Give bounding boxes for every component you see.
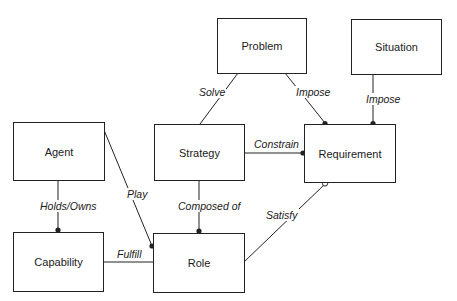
node-capability-label: Capability xyxy=(34,256,82,268)
node-requirement-label: Requirement xyxy=(319,148,382,160)
edge-label-impose-problem: Impose xyxy=(295,86,331,98)
node-strategy[interactable]: Strategy xyxy=(154,124,245,181)
node-situation[interactable]: Situation xyxy=(351,19,442,75)
edge-label-holds-owns: Holds/Owns xyxy=(39,200,98,212)
edge-label-fulfill: Fulfill xyxy=(116,248,143,260)
node-capability[interactable]: Capability xyxy=(13,232,104,292)
edge-label-satisfy: Satisfy xyxy=(265,209,299,221)
node-problem[interactable]: Problem xyxy=(217,18,307,74)
node-role-label: Role xyxy=(188,257,211,269)
edge-label-constrain: Constrain xyxy=(253,138,300,150)
node-requirement[interactable]: Requirement xyxy=(304,124,396,183)
node-agent[interactable]: Agent xyxy=(13,122,105,181)
edge-label-play: Play xyxy=(126,188,148,200)
edge-label-solve: Solve xyxy=(198,86,226,98)
node-agent-label: Agent xyxy=(45,146,74,158)
node-problem-label: Problem xyxy=(242,40,283,52)
node-situation-label: Situation xyxy=(375,41,418,53)
edge-label-impose-situation: Impose xyxy=(365,93,401,105)
node-strategy-label: Strategy xyxy=(179,147,220,159)
edge-label-composed-of: Composed of xyxy=(177,200,241,212)
node-role[interactable]: Role xyxy=(153,233,245,293)
